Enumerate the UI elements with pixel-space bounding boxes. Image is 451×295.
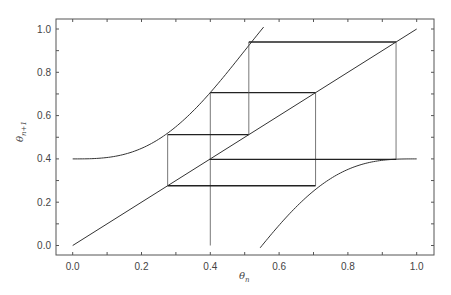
x-tick-label: 0.0: [66, 261, 80, 272]
y-tick-label: 0.4: [37, 153, 51, 164]
y-tick-label: 0.0: [37, 240, 51, 251]
identity-line: [73, 29, 417, 246]
plot-curves: [73, 27, 417, 248]
x-tick-label: 0.2: [135, 261, 149, 272]
y-axis-label: θn+1: [14, 121, 28, 142]
x-tick-label: 0.4: [203, 261, 217, 272]
map-branch-right: [260, 159, 417, 248]
x-axis-label: θn: [239, 270, 250, 284]
x-tick-label: 1.0: [410, 261, 424, 272]
x-tick-label: 0.6: [272, 261, 286, 272]
y-tick-label: 0.8: [37, 67, 51, 78]
cobweb-chart: 0.00.20.40.60.81.00.00.20.40.60.81.0 θn …: [0, 0, 451, 295]
y-tick-label: 0.6: [37, 110, 51, 121]
x-tick-label: 0.8: [341, 261, 355, 272]
y-tick-label: 0.2: [37, 197, 51, 208]
y-tick-label: 1.0: [37, 24, 51, 35]
